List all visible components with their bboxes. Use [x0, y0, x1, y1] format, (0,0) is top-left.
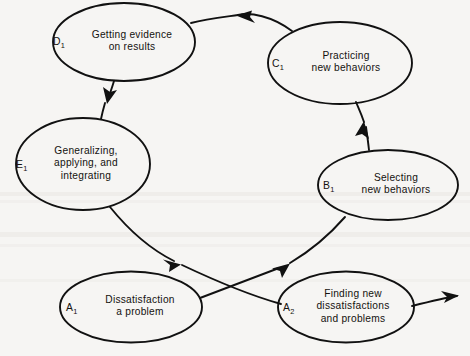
arrowhead-icon: [272, 264, 290, 279]
edge-a2-to-next: [412, 291, 459, 306]
change-cycle-diagram: D1 Getting evidence on results C1 Practi…: [0, 0, 470, 356]
node-e1-outline[interactable]: [16, 118, 150, 210]
arrowhead-icon: [163, 260, 181, 273]
arrowhead-icon: [236, 11, 255, 24]
node-a2-outline[interactable]: [278, 272, 414, 343]
edge-e1-to-a2: [110, 207, 281, 304]
diagram-canvas: [0, 0, 470, 356]
node-b1-outline[interactable]: [318, 150, 458, 220]
arrowhead-icon: [103, 87, 117, 104]
node-c1-outline[interactable]: [268, 22, 412, 104]
node-a1-outline[interactable]: [60, 272, 202, 343]
edge-a1-to-b1: [200, 217, 345, 298]
node-d1-outline[interactable]: [53, 3, 195, 81]
edge-c1-to-d1: [191, 11, 292, 32]
edge-b1-to-c1: [355, 102, 369, 150]
edge-d1-to-e1: [101, 81, 117, 119]
